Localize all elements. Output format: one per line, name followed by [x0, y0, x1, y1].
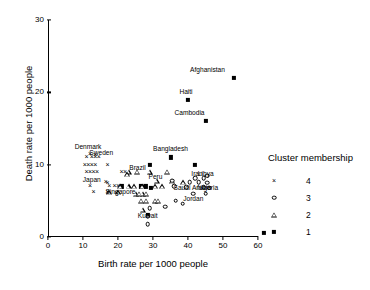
point-label: Libya: [198, 170, 214, 177]
legend-row[interactable]: 2: [268, 206, 368, 223]
point-label: Singapore: [105, 188, 135, 195]
x-tick-mark: [187, 236, 188, 240]
data-point: [170, 178, 175, 183]
x-tick-label: 40: [184, 242, 193, 250]
x-tick-label: 50: [219, 242, 228, 250]
legend-row[interactable]: 4: [268, 172, 368, 189]
x-tick-label: 60: [254, 242, 263, 250]
point-label: Sweden: [89, 149, 113, 156]
x-tick-label: 30: [149, 242, 158, 250]
point-label: Brazil: [129, 163, 146, 170]
legend-row[interactable]: 1: [268, 223, 368, 240]
y-tick-mark: [47, 92, 51, 93]
open-circle-marker: [272, 195, 277, 200]
data-point: [92, 162, 98, 168]
point-label: Japan: [83, 176, 101, 183]
data-point: [186, 97, 190, 101]
data-point: [145, 222, 150, 227]
data-point: [140, 184, 146, 189]
point-label: Cambodia: [174, 109, 204, 116]
x-tick-mark: [152, 236, 153, 240]
point-label: Bangladesh: [153, 145, 188, 152]
legend-title: Cluster membership: [268, 152, 353, 163]
y-tick-label: 10: [35, 161, 44, 169]
data-point: [155, 198, 161, 203]
data-point: [122, 169, 128, 175]
y-tick-label: 0: [40, 233, 44, 241]
data-point: [143, 191, 149, 196]
point-label: Peru: [149, 172, 163, 179]
data-point: [147, 206, 152, 211]
data-point: [159, 184, 165, 189]
legend-label: 2: [306, 210, 311, 220]
legend: 4321: [268, 172, 368, 240]
filled-square-marker: [272, 229, 276, 233]
y-tick-label: 20: [35, 88, 44, 96]
data-point: [105, 162, 111, 168]
x-axis-title: Birth rate per 1000 people: [48, 258, 258, 269]
data-point: [91, 189, 97, 195]
x-tick-mark: [222, 236, 223, 240]
legend-label: 1: [306, 227, 311, 237]
y-tick-label: 30: [35, 16, 44, 24]
point-label: Nigeria: [197, 184, 218, 191]
x-tick-label: 0: [46, 242, 50, 250]
y-tick-mark: [47, 19, 51, 20]
data-point: [152, 184, 158, 189]
data-point: [147, 163, 151, 167]
data-point: [231, 76, 235, 80]
data-point: [94, 169, 100, 175]
x-tick-mark: [82, 236, 83, 240]
x-marker: [271, 178, 277, 184]
data-point: [168, 155, 172, 159]
data-point: [163, 204, 168, 209]
x-tick-mark: [257, 236, 258, 240]
chart-root: Death rate per 1000 people Birth rate pe…: [0, 0, 370, 290]
data-point: [262, 231, 266, 235]
open-triangle-marker: [271, 212, 277, 217]
x-tick-label: 10: [79, 242, 88, 250]
y-axis-title: Death rate per 1000 people: [23, 44, 34, 204]
legend-label: 3: [306, 193, 311, 203]
legend-row[interactable]: 3: [268, 189, 368, 206]
point-label: Kuwait: [138, 212, 158, 219]
x-tick-mark: [47, 236, 48, 240]
data-point: [143, 198, 149, 203]
x-tick-label: 20: [114, 242, 123, 250]
y-tick-mark: [47, 164, 51, 165]
x-tick-mark: [117, 236, 118, 240]
data-point: [180, 201, 185, 206]
legend-label: 4: [306, 176, 311, 186]
plot-area: 01020300102030405060AfghanistanHaitiCamb…: [48, 20, 258, 237]
point-label: Afghanistan: [190, 65, 225, 72]
data-point: [203, 119, 207, 123]
point-label: Haiti: [179, 87, 192, 94]
data-point: [164, 169, 170, 174]
data-point: [193, 163, 197, 167]
data-point: [173, 199, 178, 204]
point-label: Jordan: [183, 194, 203, 201]
data-point: [203, 191, 208, 196]
